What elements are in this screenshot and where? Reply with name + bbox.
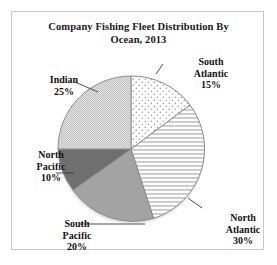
pie-label-north-atlantic-value: 30% (208, 235, 277, 247)
pie-label-south-atlantic: South Atlantic 15% (180, 56, 242, 91)
chart-frame: Company Fishing Fleet Distribution By Oc… (11, 11, 264, 250)
pie-label-north-pacific-line-1: North (20, 149, 82, 161)
leader-line-north-atlantic (188, 198, 202, 208)
pie-label-north-atlantic-line-2: Atlantic (208, 224, 277, 236)
pie-label-indian: Indian 25% (34, 74, 94, 97)
pie-label-south-atlantic-value: 15% (180, 79, 242, 91)
pie-label-north-pacific: North Pacific 10% (20, 149, 82, 184)
pie-label-south-pacific: South Pacific 20% (46, 218, 108, 253)
pie-label-north-atlantic: North Atlantic 30% (208, 212, 277, 247)
pie-label-south-atlantic-line-1: South (180, 56, 242, 68)
pie-label-north-pacific-value: 10% (20, 172, 82, 184)
pie-label-north-atlantic-line-1: North (208, 212, 277, 224)
pie-label-north-pacific-line-2: Pacific (20, 161, 82, 173)
pie-label-indian-value: 25% (34, 86, 94, 98)
pie-label-south-pacific-line-1: South (46, 218, 108, 230)
pie-label-indian-line-1: Indian (34, 74, 94, 86)
pie-label-south-pacific-value: 20% (46, 241, 108, 253)
pie-label-south-pacific-line-2: Pacific (46, 230, 108, 242)
leader-line-south-atlantic (156, 64, 163, 74)
pie-label-south-atlantic-line-2: Atlantic (180, 68, 242, 80)
